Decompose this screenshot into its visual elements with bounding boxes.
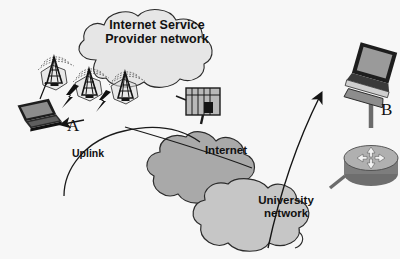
isp-cloud-label: Internet Service Provider network xyxy=(96,18,218,46)
network-diagram: Internet Service Provider network Intern… xyxy=(0,0,420,276)
internet-cloud-label: Internet xyxy=(183,144,269,157)
lightning-bolt-icon-1 xyxy=(62,84,79,108)
desktop-computer-icon xyxy=(342,41,400,108)
node-a-label: A xyxy=(67,116,79,136)
university-cloud-label: University network xyxy=(240,194,332,220)
switch-icon xyxy=(176,88,220,124)
node-b-label: B xyxy=(381,100,392,120)
uplink-label: Uplink xyxy=(72,148,130,160)
